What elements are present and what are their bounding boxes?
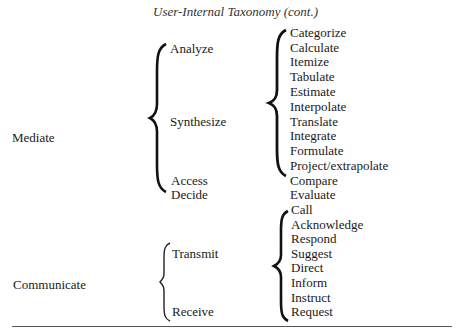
action-item: Calculate bbox=[290, 41, 339, 55]
action-item: Integrate bbox=[290, 129, 336, 143]
action-item: Tabulate bbox=[290, 70, 335, 84]
action-item: Suggest bbox=[291, 247, 332, 261]
table-title: User-Internal Taxonomy (cont.) bbox=[153, 5, 318, 19]
action-item: Itemize bbox=[290, 55, 329, 69]
subgroup-analyze: Analyze bbox=[170, 42, 213, 56]
brace-icon bbox=[272, 209, 292, 323]
action-item: Evaluate bbox=[290, 188, 335, 202]
action-item: Request bbox=[291, 305, 333, 319]
subgroup-access: Access bbox=[171, 174, 208, 188]
action-item: Direct bbox=[291, 261, 323, 275]
action-item: Categorize bbox=[290, 26, 346, 40]
category-mediate: Mediate bbox=[12, 131, 55, 145]
action-item: Compare bbox=[290, 174, 338, 188]
subgroup-decide: Decide bbox=[171, 188, 208, 202]
action-item: Translate bbox=[290, 115, 338, 129]
action-item: Project/extrapolate bbox=[290, 159, 388, 173]
brace-icon bbox=[266, 28, 290, 178]
subgroup-transmit: Transmit bbox=[172, 247, 218, 261]
action-item: Instruct bbox=[291, 291, 331, 305]
action-item: Respond bbox=[291, 232, 337, 246]
action-item: Acknowledge bbox=[291, 218, 363, 232]
action-item: Formulate bbox=[290, 144, 343, 158]
brace-icon bbox=[148, 42, 172, 194]
action-item: Estimate bbox=[290, 85, 336, 99]
action-item: Interpolate bbox=[290, 100, 346, 114]
bottom-rule bbox=[12, 326, 452, 327]
subgroup-receive: Receive bbox=[172, 305, 214, 319]
action-item: Call bbox=[291, 203, 313, 217]
category-communicate: Communicate bbox=[13, 278, 86, 292]
action-item: Inform bbox=[291, 276, 327, 290]
subgroup-synthesize: Synthesize bbox=[170, 115, 226, 129]
